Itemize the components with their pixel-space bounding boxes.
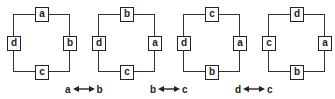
node-bottom: b <box>290 65 304 80</box>
swap-to: c <box>267 84 273 95</box>
node-left: d <box>7 36 21 51</box>
node-top: b <box>120 7 134 22</box>
swap-from: b <box>150 84 156 95</box>
node-bottom: b <box>205 65 219 80</box>
node-top: c <box>205 7 219 22</box>
node-right: a <box>148 36 162 51</box>
node-top: a <box>35 7 49 22</box>
swap-label-2: b c <box>150 82 188 96</box>
node-top: d <box>290 7 304 22</box>
node-bottom: c <box>35 65 49 80</box>
swap-to: b <box>97 84 103 95</box>
node-right: a <box>318 36 332 51</box>
node-bottom: c <box>120 65 134 80</box>
ring-outline <box>13 14 70 72</box>
double-arrow-icon <box>73 85 95 93</box>
swap-label-3: d c <box>235 82 273 96</box>
node-left: d <box>92 36 106 51</box>
node-right: b <box>63 36 77 51</box>
ring-outline <box>98 14 155 72</box>
node-left: d <box>177 36 191 51</box>
ring-outline <box>268 14 325 72</box>
node-right: a <box>233 36 247 51</box>
double-arrow-icon <box>158 85 180 93</box>
swap-to: c <box>182 84 188 95</box>
double-arrow-icon <box>243 85 265 93</box>
ring-outline <box>183 14 240 72</box>
swap-from: d <box>235 84 241 95</box>
swap-label-1: a b <box>65 82 103 96</box>
swap-from: a <box>65 84 71 95</box>
node-left: c <box>262 36 276 51</box>
